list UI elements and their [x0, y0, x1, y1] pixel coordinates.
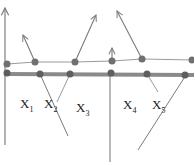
label-x4: X4: [123, 97, 136, 115]
arrow-up-2: [75, 15, 96, 62]
upper-node: [109, 58, 116, 65]
upper-node: [139, 56, 146, 63]
upper-node: [4, 61, 11, 68]
label-x2: X2: [44, 96, 57, 114]
lower-node: [67, 71, 74, 78]
lower-thick-line: [5, 74, 194, 75]
lower-node: [4, 70, 11, 77]
upper-node: [72, 59, 79, 66]
arrow-up-1: [23, 35, 35, 62]
upper-node: [32, 59, 39, 66]
chain-diagram: X1 X2 X3 X4 X5: [0, 0, 194, 165]
lower-node: [108, 70, 115, 77]
arrow-up-4: [117, 11, 142, 59]
label-x1: X1: [20, 96, 33, 114]
upper-node: [189, 57, 195, 64]
lower-node: [182, 72, 189, 79]
lower-node: [144, 71, 151, 78]
down-line-2: [57, 74, 70, 102]
label-x5: X5: [152, 97, 165, 115]
label-x3: X3: [76, 100, 89, 118]
lower-node: [37, 71, 44, 78]
